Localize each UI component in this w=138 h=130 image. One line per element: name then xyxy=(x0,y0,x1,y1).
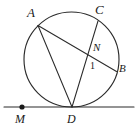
angle-label-1: 1 xyxy=(90,61,95,71)
vertex-label-c: C xyxy=(95,3,104,16)
vertex-label-m: M xyxy=(15,113,25,125)
vertex-label-n: N xyxy=(93,42,100,53)
point-m-dot xyxy=(19,104,24,109)
vertex-label-d: D xyxy=(67,113,76,125)
chord-ab xyxy=(38,26,117,72)
vertex-label-a: A xyxy=(27,6,35,19)
chord-ad xyxy=(38,26,72,108)
figure-canvas xyxy=(0,0,138,130)
geometry-figure: A C N B M D 1 xyxy=(0,0,138,130)
vertex-label-b: B xyxy=(119,63,126,74)
